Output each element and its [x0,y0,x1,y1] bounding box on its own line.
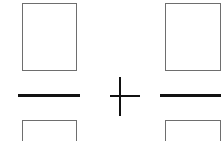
left-numerator-box[interactable] [22,3,77,71]
plus-operator-icon [110,77,140,116]
plus-horizontal-stroke [110,95,140,97]
left-fraction-bar [18,94,80,97]
right-fraction-bar [160,94,221,97]
left-denominator-box[interactable] [22,120,77,141]
right-numerator-box[interactable] [165,3,221,71]
plus-vertical-stroke [119,77,121,116]
right-denominator-box[interactable] [165,120,221,141]
